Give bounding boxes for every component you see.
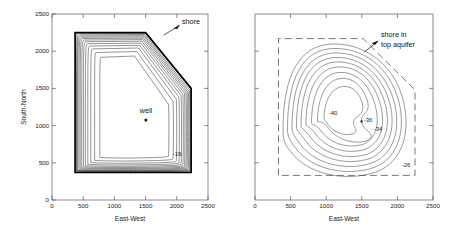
left-xtick-500: 500	[78, 202, 89, 209]
left-shore-label: shore	[182, 17, 200, 26]
left-plot-svg: 0 500 1000 1500 2000 2500 0 500 1000 150…	[0, 0, 234, 242]
left-xtick-1500: 1500	[139, 202, 153, 209]
left-xtick-2500: 2500	[201, 202, 215, 209]
right-xtick-0: 0	[253, 202, 257, 209]
left-ytick-1500: 1500	[35, 84, 49, 91]
right-contour-set	[283, 44, 406, 177]
left-well-label: well	[139, 106, 153, 115]
left-ytick-2000: 2000	[35, 47, 49, 54]
left-shore-leader	[164, 25, 180, 36]
right-contour-label-26: -26	[402, 162, 411, 168]
right-shore-boundary-dashed	[279, 39, 416, 176]
right-xtick-1000: 1000	[319, 202, 333, 209]
left-ytick-1000: 1000	[35, 122, 49, 129]
left-ytick-500: 500	[39, 159, 50, 166]
left-xtick-0: 0	[50, 202, 54, 209]
left-ytick-2500: 2500	[35, 10, 49, 17]
right-plot-svg: 0 500 1000 1500 2000 2500 East-West	[234, 0, 468, 242]
left-ytick-0: 0	[46, 196, 50, 203]
right-xtick-500: 500	[285, 202, 296, 209]
left-xtick-1000: 1000	[108, 202, 122, 209]
left-yaxis-label: South-North	[20, 89, 27, 125]
right-contour-label-36: -36	[364, 117, 373, 123]
panel-left-bottom-aquifer: 0 500 1000 1500 2000 2500 0 500 1000 150…	[0, 0, 234, 242]
contour-figure: 0 500 1000 1500 2000 2500 0 500 1000 150…	[0, 0, 468, 242]
right-xtick-1500: 1500	[355, 202, 369, 209]
right-y-ticks	[255, 51, 433, 163]
right-xtick-2500: 2500	[426, 202, 440, 209]
right-contour-label-34: -34	[374, 126, 383, 132]
right-xaxis-label: East-West	[329, 215, 359, 222]
right-well-marker	[361, 120, 363, 122]
right-shore-label-line1: shore in	[381, 30, 407, 39]
left-contour-label-19: -19	[173, 151, 182, 157]
panel-right-top-aquifer: 0 500 1000 1500 2000 2500 East-West	[234, 0, 468, 242]
right-xtick-2000: 2000	[391, 202, 405, 209]
left-xaxis-label: East-West	[115, 215, 145, 222]
left-xtick-2000: 2000	[170, 202, 184, 209]
right-shore-label-line2: top aquifer	[381, 40, 416, 49]
left-well-marker	[145, 119, 148, 122]
right-contour-label-40: -40	[329, 110, 338, 116]
